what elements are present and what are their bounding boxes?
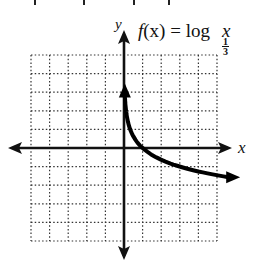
log-base-denominator: 3: [222, 47, 229, 56]
top-tick-marks: [35, 0, 169, 5]
x-axis-label: x: [238, 138, 246, 158]
chart-title: f(x) = logx: [138, 20, 230, 42]
y-axis-label: y: [115, 16, 122, 33]
curve-up-arrow-icon: [119, 83, 131, 97]
y-axis: [118, 30, 130, 260]
curve-right-arrow-icon: [226, 171, 240, 183]
log-base-fraction: 1 3: [222, 37, 229, 56]
title-body: (x) = log: [143, 20, 210, 41]
